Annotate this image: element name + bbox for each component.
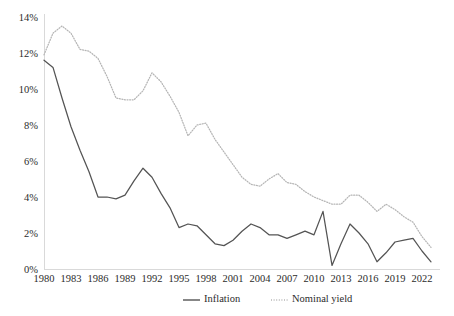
series-line-inflation — [44, 60, 431, 265]
x-tick-label: 2013 — [331, 273, 352, 284]
x-tick-label: 2001 — [223, 273, 244, 284]
x-tick-label: 2016 — [358, 273, 379, 284]
y-tick-label: 10% — [19, 84, 39, 95]
chart-legend: InflationNominal yield — [183, 293, 353, 304]
x-tick-label: 1980 — [34, 273, 55, 284]
y-tick-label: 6% — [24, 156, 38, 167]
data-series — [44, 26, 431, 265]
y-tick-label: 12% — [19, 48, 39, 59]
x-tick-label: 1992 — [142, 273, 163, 284]
x-tick-label: 2010 — [304, 273, 325, 284]
x-tick-label: 1986 — [88, 273, 109, 284]
y-tick-label: 4% — [24, 192, 38, 203]
x-tick-label: 2022 — [412, 273, 433, 284]
chart-canvas: 0%2%4%6%8%10%12%14% 19801983198619891992… — [0, 0, 454, 316]
x-axis-tick-labels: 1980198319861989199219951998200120042007… — [34, 273, 433, 284]
legend-label-inflation[interactable]: Inflation — [204, 293, 241, 304]
x-tick-label: 1989 — [115, 273, 136, 284]
legend-label-nominal-yield[interactable]: Nominal yield — [292, 293, 353, 304]
series-line-nominal-yield — [44, 26, 431, 247]
x-tick-label: 1998 — [196, 273, 217, 284]
y-tick-label: 14% — [19, 12, 39, 23]
y-tick-label: 8% — [24, 120, 38, 131]
y-tick-label: 2% — [24, 228, 38, 239]
x-tick-label: 1995 — [169, 273, 190, 284]
line-chart-container: 0%2%4%6%8%10%12%14% 19801983198619891992… — [0, 0, 454, 316]
y-axis-tick-labels: 0%2%4%6%8%10%12%14% — [19, 12, 39, 275]
x-tick-label: 2007 — [277, 273, 298, 284]
x-tick-label: 2019 — [385, 273, 406, 284]
x-tick-label: 1983 — [61, 273, 82, 284]
x-tick-label: 2004 — [250, 273, 272, 284]
